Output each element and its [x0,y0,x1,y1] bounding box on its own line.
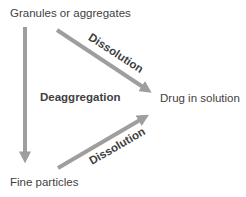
node-granules-or-aggregates: Granules or aggregates [10,7,131,19]
node-fine-particles: Fine particles [10,176,78,188]
edge-label-deaggregation: Deaggregation [40,91,121,103]
node-drug-in-solution: Drug in solution [160,92,240,104]
dissolution-process-diagram: Granules or aggregates Deaggregation Dru… [0,0,246,197]
